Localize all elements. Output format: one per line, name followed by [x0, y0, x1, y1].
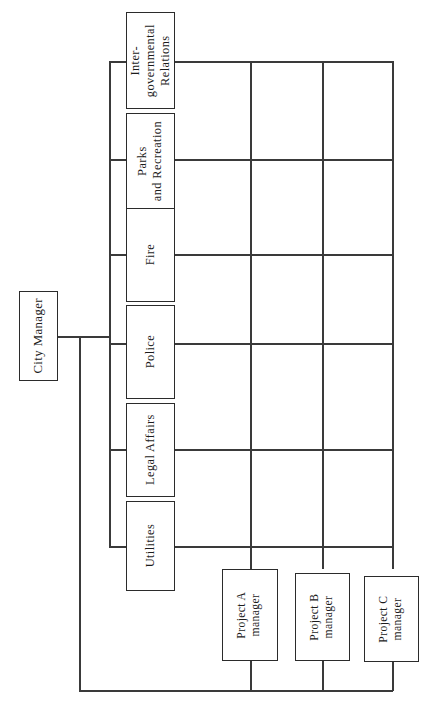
node-parks-and-recreation[interactable]: Parks and Recreation	[126, 113, 175, 210]
matrix-column-line-project-b	[322, 61, 324, 569]
node-project-a-manager[interactable]: Project A manager	[222, 569, 278, 661]
node-project-c-manager-label: Project C manager	[377, 595, 405, 642]
spine-stub-parks	[109, 159, 127, 161]
node-fire[interactable]: Fire	[126, 208, 175, 302]
spine-stub-fire	[109, 254, 127, 256]
matrix-row-line-legal-affairs	[174, 449, 393, 451]
matrix-row-line-intergovernmental	[174, 61, 393, 63]
spine-stub-intergovernmental	[109, 61, 127, 63]
spine-stub-police	[109, 343, 127, 345]
node-fire-label: Fire	[143, 244, 158, 266]
matrix-row-line-utilities	[174, 546, 393, 548]
node-utilities[interactable]: Utilities	[126, 501, 175, 591]
node-police-label: Police	[143, 335, 158, 368]
matrix-column-line-project-a	[250, 61, 252, 569]
node-project-b-manager[interactable]: Project B manager	[295, 573, 350, 661]
node-project-b-manager-label: Project B manager	[308, 593, 336, 640]
spine-stub-legal-affairs	[109, 449, 127, 451]
department-spine-line	[109, 61, 111, 547]
node-police[interactable]: Police	[126, 305, 175, 399]
node-legal-affairs[interactable]: Legal Affairs	[126, 403, 175, 497]
project-c-bottom-connector	[392, 660, 394, 691]
node-project-c-manager[interactable]: Project C manager	[364, 576, 419, 662]
project-a-bottom-connector	[250, 660, 252, 691]
node-intergovernmental-relations-label: Inter- governmental Relations	[128, 24, 173, 97]
node-project-a-manager-label: Project A manager	[236, 591, 264, 638]
root-outer-bottom-line	[79, 690, 393, 692]
root-outer-left-line	[79, 336, 81, 691]
matrix-row-line-police	[174, 343, 393, 345]
matrix-row-line-parks	[174, 159, 393, 161]
node-city-manager[interactable]: City Manager	[19, 291, 58, 381]
node-utilities-label: Utilities	[143, 524, 158, 568]
root-to-spine-connector	[57, 336, 110, 338]
node-city-manager-label: City Manager	[31, 298, 47, 374]
matrix-row-line-fire	[174, 254, 393, 256]
node-parks-and-recreation-label: Parks and Recreation	[135, 121, 165, 201]
spine-stub-utilities	[109, 546, 127, 548]
project-b-bottom-connector	[322, 660, 324, 691]
org-chart-canvas: City Manager Inter- governmental Relatio…	[0, 0, 424, 718]
node-legal-affairs-label: Legal Affairs	[143, 415, 158, 486]
node-intergovernmental-relations[interactable]: Inter- governmental Relations	[126, 12, 175, 109]
matrix-column-line-project-c	[392, 61, 394, 569]
